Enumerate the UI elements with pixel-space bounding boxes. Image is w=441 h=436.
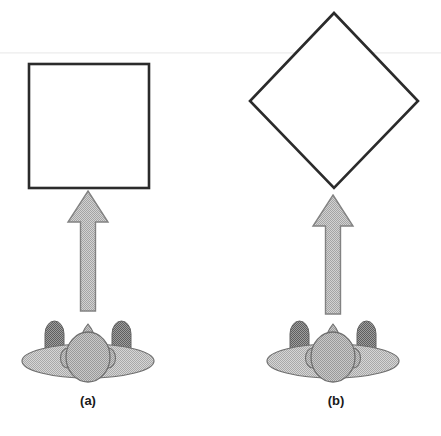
figure-canvas (0, 0, 441, 436)
observer-head (66, 332, 110, 382)
panel-a (22, 64, 154, 382)
square-shape (29, 64, 149, 188)
panel-b (250, 13, 418, 382)
figure-root: (a) (b) (0, 0, 441, 436)
viewing-direction-arrow-b (313, 195, 353, 314)
panel-caption-b: (b) (306, 393, 366, 408)
observer-head (311, 332, 355, 382)
viewing-direction-arrow-a (68, 191, 108, 311)
diamond-shape (250, 13, 418, 188)
observer-figure-b (267, 321, 399, 382)
panel-caption-a: (a) (58, 393, 118, 408)
observer-figure-a (22, 321, 154, 382)
